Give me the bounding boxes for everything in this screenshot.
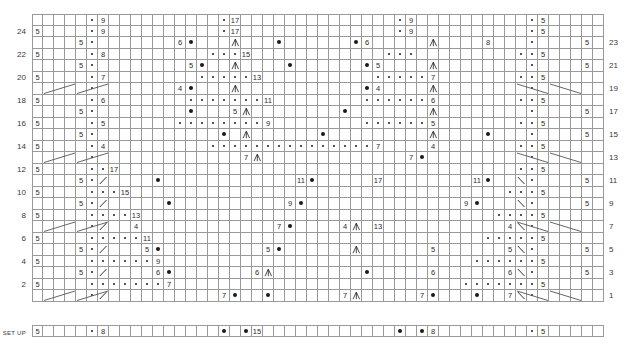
chart-cell[interactable] [98,83,109,95]
chart-cell[interactable] [505,175,516,187]
chart-cell[interactable] [208,256,219,268]
chart-cell-symbol[interactable] [417,72,428,84]
chart-cell[interactable] [43,141,54,153]
chart-cell-symbol[interactable] [186,95,197,107]
chart-cell-symbol[interactable] [175,118,186,130]
chart-cell[interactable] [384,60,395,72]
chart-cell[interactable] [538,221,549,233]
chart-cell[interactable] [230,221,241,233]
chart-cell-symbol[interactable] [505,233,516,245]
chart-cell[interactable] [98,37,109,49]
chart-cell-symbol[interactable] [230,290,241,302]
chart-cell[interactable] [340,152,351,164]
chart-cell[interactable] [43,118,54,130]
chart-cell[interactable] [593,14,604,26]
chart-cell[interactable] [549,106,560,118]
chart-cell[interactable] [472,233,483,245]
setup-cell[interactable] [208,325,219,337]
chart-cell[interactable] [241,37,252,49]
chart-cell[interactable] [109,129,120,141]
chart-cell[interactable] [296,233,307,245]
chart-cell[interactable] [428,152,439,164]
chart-cell-symbol[interactable] [472,198,483,210]
chart-cell[interactable] [494,106,505,118]
chart-cell-symbol[interactable] [527,290,538,302]
chart-cell-symbol[interactable] [87,49,98,61]
chart-cell[interactable] [538,290,549,302]
chart-cell-symbol[interactable] [516,164,527,176]
chart-cell[interactable] [351,83,362,95]
chart-cell[interactable] [197,129,208,141]
chart-cell-symbol[interactable] [98,198,109,210]
setup-cell[interactable] [296,325,307,337]
chart-cell[interactable] [461,267,472,279]
setup-cell[interactable] [450,325,461,337]
chart-cell-count[interactable]: 5 [32,279,43,291]
chart-cell[interactable] [329,198,340,210]
chart-cell[interactable] [549,83,560,95]
chart-cell-count[interactable]: 4 [340,221,351,233]
chart-cell[interactable] [120,60,131,72]
chart-cell[interactable] [373,14,384,26]
chart-cell[interactable] [560,279,571,291]
chart-cell[interactable] [362,233,373,245]
chart-cell[interactable] [384,187,395,199]
chart-cell[interactable] [219,221,230,233]
chart-cell[interactable] [32,290,43,302]
chart-cell[interactable] [505,118,516,130]
chart-cell[interactable] [65,152,76,164]
chart-cell[interactable] [395,83,406,95]
chart-cell[interactable] [472,152,483,164]
chart-cell[interactable] [329,14,340,26]
chart-cell[interactable] [54,72,65,84]
chart-cell[interactable] [505,129,516,141]
setup-cell[interactable] [329,325,340,337]
chart-cell[interactable] [417,233,428,245]
chart-cell-symbol[interactable] [164,267,175,279]
chart-cell-count[interactable]: 7 [274,221,285,233]
chart-cell[interactable] [494,83,505,95]
chart-cell[interactable] [219,106,230,118]
chart-cell[interactable] [571,60,582,72]
chart-cell[interactable] [549,60,560,72]
chart-cell[interactable] [153,26,164,38]
chart-cell[interactable] [494,152,505,164]
chart-cell[interactable] [76,83,87,95]
chart-cell-symbol[interactable] [263,290,274,302]
chart-cell[interactable] [274,72,285,84]
chart-cell-symbol[interactable] [362,83,373,95]
chart-cell[interactable] [461,175,472,187]
chart-cell[interactable] [373,256,384,268]
chart-cell[interactable] [208,60,219,72]
setup-cell[interactable] [505,325,516,337]
chart-cell[interactable] [571,72,582,84]
chart-cell-count[interactable]: 5 [582,37,593,49]
chart-cell[interactable] [516,37,527,49]
chart-cell[interactable] [175,60,186,72]
chart-cell[interactable] [153,210,164,222]
chart-cell[interactable] [549,26,560,38]
chart-cell[interactable] [175,72,186,84]
chart-cell-symbol[interactable] [362,95,373,107]
chart-cell-count[interactable]: 4 [98,141,109,153]
chart-cell[interactable] [318,83,329,95]
chart-cell[interactable] [483,244,494,256]
chart-cell[interactable] [285,37,296,49]
chart-cell[interactable] [142,26,153,38]
chart-cell[interactable] [340,129,351,141]
chart-cell[interactable] [384,210,395,222]
chart-cell[interactable] [197,290,208,302]
chart-cell[interactable] [263,187,274,199]
setup-cell[interactable] [76,325,87,337]
chart-cell[interactable] [131,83,142,95]
chart-cell[interactable] [98,60,109,72]
chart-cell[interactable] [439,49,450,61]
chart-cell[interactable] [219,198,230,210]
chart-cell[interactable] [571,106,582,118]
chart-cell[interactable] [384,244,395,256]
chart-cell[interactable] [230,175,241,187]
chart-cell[interactable] [593,141,604,153]
chart-cell[interactable] [142,60,153,72]
chart-cell[interactable] [307,106,318,118]
chart-cell[interactable] [461,49,472,61]
